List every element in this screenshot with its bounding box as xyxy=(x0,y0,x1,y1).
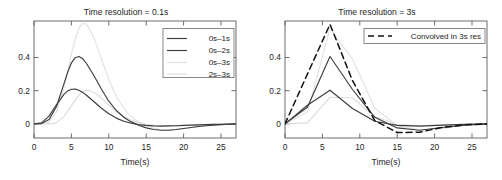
left-panel-title: Time resolution = 0.1s xyxy=(84,7,168,17)
left-panel-svg: Time resolution = 0.1s xyxy=(0,0,251,180)
right-xtick-10: 10 xyxy=(355,142,365,152)
right-xtick-25: 25 xyxy=(467,142,477,152)
right-xtick-15: 15 xyxy=(393,142,403,152)
left-ytick-0.2: 0.2 xyxy=(18,86,30,96)
left-xtick-0: 0 xyxy=(32,142,37,152)
left-legend-label-0s-3s: 0s–3s xyxy=(209,58,230,67)
left-xtick-10: 10 xyxy=(104,142,114,152)
left-xtick-25: 25 xyxy=(216,142,226,152)
right-xtick-0: 0 xyxy=(283,142,288,152)
left-panel-xticklabels: 0 5 10 15 20 25 xyxy=(32,142,226,152)
panel-time-resolution-0.1s: Time resolution = 0.1s xyxy=(0,0,251,180)
left-xtick-20: 20 xyxy=(179,142,189,152)
right-ytick-0: 0 xyxy=(276,119,281,129)
right-panel-svg: Time resolution = 3s xyxy=(251,0,502,180)
figure-container: Time resolution = 0.1s xyxy=(0,0,502,180)
left-xtick-5: 5 xyxy=(69,142,74,152)
right-xaxis-label: Time(s) xyxy=(372,157,401,167)
panel-time-resolution-3s: Time resolution = 3s xyxy=(251,0,502,180)
left-legend-label-2s-3s: 2s–3s xyxy=(209,70,230,79)
left-legend-label-0s-2s: 0s–2s xyxy=(209,46,230,55)
right-panel-legend[interactable]: Convolved in 3s res xyxy=(364,29,485,44)
left-panel-yticklabels: 0 0.2 0.4 xyxy=(18,52,30,128)
right-panel-yticklabels: 0 0.2 0.4 xyxy=(269,52,281,128)
left-ytick-0: 0 xyxy=(25,119,30,129)
right-panel-title: Time resolution = 3s xyxy=(338,7,415,17)
left-ytick-0.4: 0.4 xyxy=(18,52,30,62)
left-xtick-15: 15 xyxy=(142,142,152,152)
right-panel-xticklabels: 0 5 10 15 20 25 xyxy=(283,142,477,152)
left-legend-label-0s-1s: 0s–1s xyxy=(209,34,230,43)
left-panel-legend[interactable]: 0s–1s 0s–2s 0s–3s 2s–3s xyxy=(163,29,234,79)
left-xaxis-label: Time(s) xyxy=(121,157,150,167)
right-ytick-0.2: 0.2 xyxy=(269,86,281,96)
right-xtick-5: 5 xyxy=(320,142,325,152)
right-legend-label-convolved-3s: Convolved in 3s res xyxy=(411,32,481,41)
right-xtick-20: 20 xyxy=(430,142,440,152)
right-ytick-0.4: 0.4 xyxy=(269,52,281,62)
